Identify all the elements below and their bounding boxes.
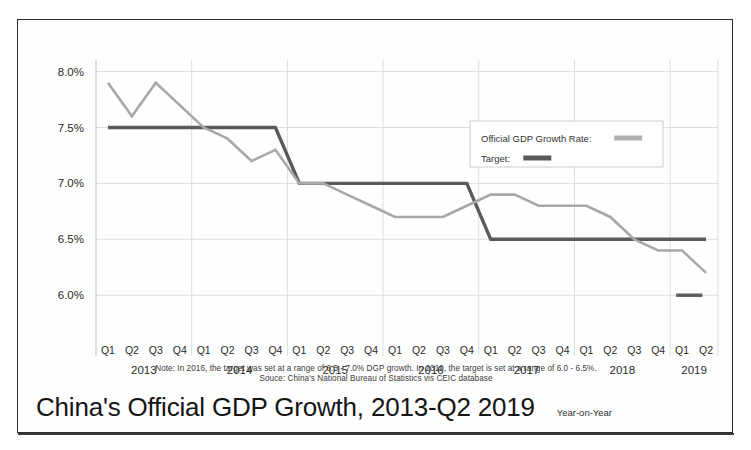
chart-plot-area: 8.0%7.5%7.0%6.5%6.0%20132014201520162017…: [18, 20, 734, 380]
chart-note: Note: In 2016, the target was set at a r…: [18, 364, 734, 374]
x-axis-quarter-label: Q4: [651, 344, 665, 356]
x-axis-quarter-label: Q2: [508, 344, 522, 356]
title-divider: [18, 433, 734, 435]
chart-footnotes: Note: In 2016, the target was set at a r…: [18, 364, 734, 385]
x-axis-quarter-label: Q2: [699, 344, 713, 356]
x-axis-quarter-label: Q1: [579, 344, 593, 356]
x-axis-quarter-label: Q2: [603, 344, 617, 356]
x-axis-quarter-label: Q1: [484, 344, 498, 356]
x-axis-quarter-label: Q1: [388, 344, 402, 356]
x-axis-quarter-label: Q3: [244, 344, 258, 356]
x-axis-quarter-label: Q1: [197, 344, 211, 356]
series-line-official-gdp: [108, 83, 706, 273]
y-axis-tick-label: 6.5%: [58, 233, 84, 245]
x-axis-quarter-label: Q4: [555, 344, 569, 356]
x-axis-quarter-label: Q3: [627, 344, 641, 356]
x-axis-quarter-label: Q2: [316, 344, 330, 356]
page-title: China's Official GDP Growth, 2013-Q2 201…: [36, 392, 535, 423]
x-axis-quarter-label: Q4: [268, 344, 282, 356]
page-subtitle: Year-on-Year: [557, 407, 612, 418]
x-axis-quarter-label: Q1: [101, 344, 115, 356]
y-axis-tick-label: 7.0%: [58, 177, 84, 189]
x-axis-quarter-label: Q3: [532, 344, 546, 356]
legend-label: Official GDP Growth Rate:: [481, 133, 592, 144]
gdp-growth-line-chart: 8.0%7.5%7.0%6.5%6.0%20132014201520162017…: [18, 20, 734, 380]
legend-label: Target:: [481, 153, 510, 164]
x-axis-quarter-label: Q3: [340, 344, 354, 356]
x-axis-quarter-label: Q1: [292, 344, 306, 356]
y-axis-tick-label: 8.0%: [58, 66, 84, 78]
y-axis-tick-label: 6.0%: [58, 289, 84, 301]
x-axis-quarter-label: Q3: [149, 344, 163, 356]
x-axis-quarter-label: Q2: [221, 344, 235, 356]
x-axis-quarter-label: Q3: [436, 344, 450, 356]
x-axis-quarter-label: Q4: [460, 344, 474, 356]
x-axis-quarter-label: Q2: [412, 344, 426, 356]
chart-title-bar: China's Official GDP Growth, 2013-Q2 201…: [18, 392, 734, 434]
x-axis-quarter-label: Q1: [675, 344, 689, 356]
chart-source: Souce: China's National Bureau of Statis…: [18, 374, 734, 384]
y-axis-tick-label: 7.5%: [58, 122, 84, 134]
x-axis-quarter-label: Q4: [173, 344, 187, 356]
chart-frame: 8.0%7.5%7.0%6.5%6.0%20132014201520162017…: [17, 19, 733, 433]
x-axis-quarter-label: Q4: [364, 344, 378, 356]
x-axis-quarter-label: Q2: [125, 344, 139, 356]
